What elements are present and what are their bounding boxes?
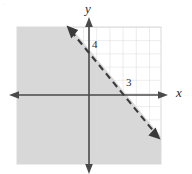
y-axis-label: y: [85, 2, 91, 15]
coordinate-plane-figure: ·: [0, 0, 192, 174]
y-intercept-label: 4: [92, 39, 98, 50]
x-axis-arrow-left: [9, 91, 19, 99]
graph-canvas: [0, 0, 192, 174]
x-intercept-label: 3: [126, 77, 132, 88]
x-axis-label: x: [176, 86, 182, 99]
x-axis-arrow-right: [158, 91, 168, 99]
y-axis-arrow-top: [85, 17, 93, 27]
y-axis-arrow-bottom: [85, 164, 93, 174]
